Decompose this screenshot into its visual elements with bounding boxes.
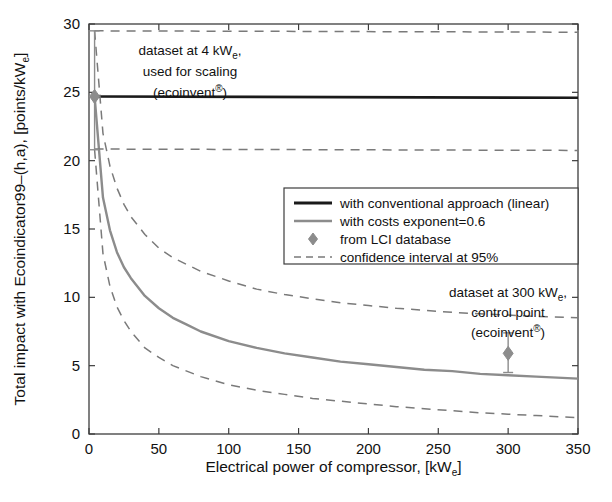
annotation-line: used for scaling	[143, 64, 238, 79]
y-tick-label: 30	[63, 15, 80, 32]
x-tick-label: 200	[356, 440, 381, 457]
x-tick-label: 350	[565, 440, 590, 457]
legend-label: confidence interval at 95%	[340, 250, 498, 265]
x-tick-label: 150	[286, 440, 311, 457]
x-tick-label: 50	[151, 440, 168, 457]
chart-svg: 050100150200250300350 051015202530 datas…	[0, 0, 612, 502]
y-tick-label: 15	[63, 220, 80, 237]
x-tick-label: 0	[85, 440, 93, 457]
legend-label: from LCI database	[340, 232, 451, 247]
annotation-line: control point	[471, 305, 545, 320]
figure-container: 050100150200250300350 051015202530 datas…	[0, 0, 612, 502]
y-tick-label: 20	[63, 152, 80, 169]
y-tick-label: 5	[72, 357, 80, 374]
y-tick-label: 25	[63, 83, 80, 100]
legend-label: with costs exponent=0.6	[339, 214, 485, 229]
x-tick-label: 250	[426, 440, 451, 457]
x-tick-label: 300	[496, 440, 521, 457]
y-tick-label: 0	[72, 425, 80, 442]
legend-label: with conventional approach (linear)	[339, 196, 549, 211]
y-tick-label: 10	[63, 288, 80, 305]
x-tick-label: 100	[216, 440, 241, 457]
chart-legend: with conventional approach (linear)with …	[284, 188, 578, 265]
